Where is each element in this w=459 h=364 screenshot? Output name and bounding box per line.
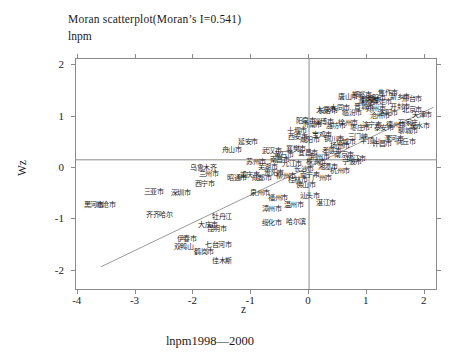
x-tick-label: 1 xyxy=(354,294,378,306)
y-tick xyxy=(71,116,75,117)
city-label: 深圳市 xyxy=(171,189,191,196)
city-label-cluster: 商丘市 xyxy=(396,138,416,145)
x-tick-top xyxy=(135,54,136,58)
y-tick-label: 2 xyxy=(38,58,64,70)
city-label: 七台河市 xyxy=(205,241,231,248)
y-tick xyxy=(71,167,75,168)
y-tick xyxy=(71,270,75,271)
x-tick-label: -4 xyxy=(65,294,89,306)
x-tick-top xyxy=(250,54,251,58)
x-tick-label: 2 xyxy=(412,294,436,306)
city-label: 延安市 xyxy=(238,138,258,145)
city-label-cluster: 佛山市 xyxy=(296,181,316,188)
city-label: 佳木斯 xyxy=(212,257,232,264)
city-label-cluster: 扬州市 xyxy=(330,142,350,149)
city-label: 昆明市 xyxy=(207,225,227,232)
y-tick-right xyxy=(437,218,441,219)
moran-scatterplot-figure: Moran scatterplot(Moran’s I=0.541) lnpm … xyxy=(0,0,459,364)
x-tick-top xyxy=(366,54,367,58)
city-label-cluster: 沧州市 xyxy=(370,112,390,119)
x-tick-top xyxy=(424,54,425,58)
y-tick xyxy=(71,64,75,65)
city-label: 双鸭山 xyxy=(174,243,194,250)
x-tick-label: -2 xyxy=(180,294,204,306)
city-label: 临沧市 xyxy=(96,201,116,208)
x-tick-top xyxy=(77,54,78,58)
y-tick-right xyxy=(437,116,441,117)
city-label: 舟山市 xyxy=(222,146,242,153)
city-label: 齐齐哈尔 xyxy=(146,211,172,218)
city-label: 伊春市 xyxy=(177,235,197,242)
y-tick-label: 1 xyxy=(38,110,64,122)
city-label-cluster: 宁波市 xyxy=(342,158,362,165)
x-tick-top xyxy=(192,54,193,58)
city-label: 漳州市 xyxy=(262,205,282,212)
city-label-cluster: 邢台市 xyxy=(402,95,422,102)
city-label: 鹤岗市 xyxy=(194,248,214,255)
city-label: 牡丹江 xyxy=(212,213,232,220)
x-axis-label: z xyxy=(241,303,246,315)
x-tick-top xyxy=(308,54,309,58)
y-tick-right xyxy=(437,270,441,271)
y-tick-label: -2 xyxy=(38,264,64,276)
y-tick-right xyxy=(437,64,441,65)
y-axis-label: Wz xyxy=(16,160,28,176)
y-variable-label: lnpm xyxy=(68,30,92,42)
city-label: 西宁市 xyxy=(195,180,215,187)
city-label-cluster: 温州市 xyxy=(284,201,304,208)
city-label: 哈尔滨 xyxy=(286,218,306,225)
chart-title: Moran scatterplot(Moran’s I=0.541) xyxy=(68,13,241,25)
city-label: 绥化市 xyxy=(262,219,282,226)
figure-caption: lnpm1998—2000 xyxy=(95,334,325,349)
y-tick-label: -1 xyxy=(38,212,64,224)
x-tick-label: -3 xyxy=(123,294,147,306)
y-tick xyxy=(71,218,75,219)
city-label-cluster: 衡水市 xyxy=(410,122,430,129)
city-label-cluster: 杭州市 xyxy=(330,167,350,174)
city-label-cluster: 泉州市 xyxy=(250,189,270,196)
city-label-cluster: 湛江市 xyxy=(316,199,336,206)
city-label: 三亚市 xyxy=(144,188,164,195)
city-label-cluster: 天津市 xyxy=(412,111,432,118)
y-tick-label: 0 xyxy=(38,161,64,173)
city-label: 兰州市 xyxy=(199,170,219,177)
x-tick-label: 0 xyxy=(296,294,320,306)
y-tick-right xyxy=(437,167,441,168)
